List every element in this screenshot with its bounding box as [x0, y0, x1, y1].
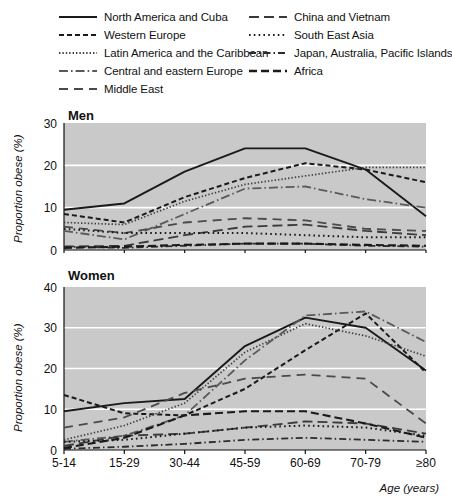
women-chart: 0102030405-1415-2930-4445-5960-6970-79≥8…: [0, 280, 447, 480]
y-tick-label-10: 10: [44, 403, 58, 417]
y-tick-label-0: 0: [50, 244, 57, 258]
legend-label-latin_america: Latin America and the Caribbean: [104, 47, 268, 59]
legend-label-japan_aus_pacific: Japan, Australia, Pacific Islands: [294, 47, 452, 59]
y-tick-label-20: 20: [44, 159, 58, 173]
legend-label-na_cuba: North America and Cuba: [104, 11, 228, 23]
chart-legend: North America and CubaChina and VietnamW…: [58, 8, 440, 98]
legend-spacer: [248, 80, 440, 98]
legend-label-middle_east: Middle East: [104, 83, 163, 95]
legend-line-swatch-na_cuba: [58, 12, 98, 22]
legend-label-africa: Africa: [294, 65, 323, 77]
legend-label-western_europe: Western Europe: [104, 29, 186, 41]
y-tick-label-20: 20: [44, 362, 58, 376]
x-tick-label-5: 70-79: [350, 456, 381, 470]
x-tick-label-0: 5-14: [52, 456, 76, 470]
legend-line-swatch-middle_east: [58, 84, 98, 94]
legend-label-china_vietnam: China and Vietnam: [294, 11, 390, 23]
legend-line-swatch-latin_america: [58, 48, 98, 58]
legend-line-swatch-japan_aus_pacific: [248, 48, 288, 58]
x-tick-label-2: 30-44: [169, 456, 200, 470]
y-tick-label-40: 40: [44, 281, 58, 295]
x-tick-label-3: 45-59: [230, 456, 261, 470]
legend-line-swatch-central_eastern_europe: [58, 66, 98, 76]
legend-item-china_vietnam[interactable]: China and Vietnam: [248, 8, 440, 26]
legend-item-japan_aus_pacific[interactable]: Japan, Australia, Pacific Islands: [248, 44, 440, 62]
y-tick-label-30: 30: [44, 117, 58, 131]
legend-item-africa[interactable]: Africa: [248, 62, 440, 80]
legend-item-western_europe[interactable]: Western Europe: [58, 26, 248, 44]
legend-item-latin_america[interactable]: Latin America and the Caribbean: [58, 44, 248, 62]
x-tick-label-4: 60-69: [290, 456, 321, 470]
legend-line-swatch-south_east_asia: [248, 30, 288, 40]
legend-item-na_cuba[interactable]: North America and Cuba: [58, 8, 248, 26]
legend-line-swatch-china_vietnam: [248, 12, 288, 22]
legend-line-swatch-western_europe: [58, 30, 98, 40]
legend-item-middle_east[interactable]: Middle East: [58, 80, 248, 98]
y-tick-label-30: 30: [44, 321, 58, 335]
y-tick-label-10: 10: [44, 201, 58, 215]
x-tick-label-1: 15-29: [109, 456, 140, 470]
x-tick-label-6: ≥80: [416, 456, 436, 470]
legend-line-swatch-africa: [248, 66, 288, 76]
men-chart: 0102030: [0, 113, 447, 263]
legend-label-south_east_asia: South East Asia: [294, 29, 374, 41]
legend-item-south_east_asia[interactable]: South East Asia: [248, 26, 440, 44]
legend-label-central_eastern_europe: Central and eastern Europe: [104, 65, 243, 77]
x-axis-label: Age (years): [380, 482, 439, 494]
legend-item-central_eastern_europe[interactable]: Central and eastern Europe: [58, 62, 248, 80]
